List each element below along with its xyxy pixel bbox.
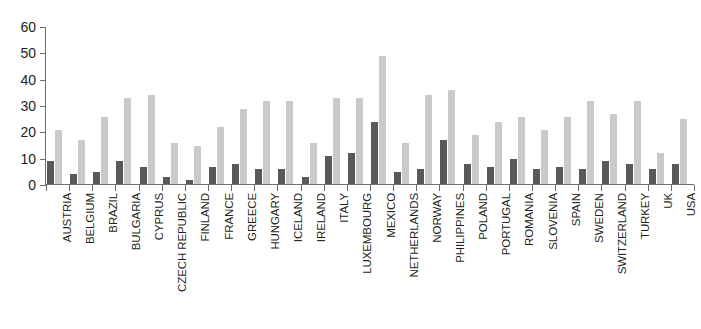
y-tick-label-60: 60 <box>20 20 36 34</box>
x-tick-mark <box>578 185 579 191</box>
x-tick-mark <box>370 185 371 191</box>
bar-series-light <box>587 101 594 185</box>
x-label-switzerland: SWITZERLAND <box>617 193 629 274</box>
x-tick-mark <box>671 185 672 191</box>
x-label-hungary: HUNGARY <box>270 193 282 250</box>
x-label-netherlands: NETHERLANDS <box>409 193 421 278</box>
bar-group <box>555 27 578 185</box>
bar-series-light <box>171 143 178 185</box>
bar-series-dark <box>533 169 540 185</box>
bar-group <box>370 27 393 185</box>
bar-series-light <box>217 127 224 185</box>
bar-series-dark <box>116 161 123 185</box>
x-label-finland: FINLAND <box>200 193 212 242</box>
bar-series-light <box>518 117 525 185</box>
y-tick-mark-30 <box>40 106 46 107</box>
bar-series-dark <box>209 167 216 185</box>
bar-group <box>254 27 277 185</box>
x-tick-mark <box>555 185 556 191</box>
x-tick-mark <box>694 185 695 191</box>
x-tick-mark <box>463 185 464 191</box>
bar-series-dark <box>626 164 633 185</box>
y-tick-mark-60 <box>40 27 46 28</box>
x-tick-mark <box>324 185 325 191</box>
x-tick-mark <box>69 185 70 191</box>
bar-group <box>463 27 486 185</box>
bar-group <box>115 27 138 185</box>
bar-group <box>92 27 115 185</box>
x-label-philippines: PHILIPPINES <box>455 193 467 263</box>
bar-series-light <box>101 117 108 185</box>
bar-series-light <box>333 98 340 185</box>
y-tick-label-50: 50 <box>20 46 36 60</box>
bar-group <box>648 27 671 185</box>
bar-chart: 6050403020100 AUSTRIABELGIUMBRAZILBULGAR… <box>0 0 701 329</box>
bar-series-light <box>310 143 317 185</box>
x-tick-mark <box>601 185 602 191</box>
x-tick-mark <box>648 185 649 191</box>
bar-series-dark <box>579 169 586 185</box>
bar-group <box>162 27 185 185</box>
bar-group <box>509 27 532 185</box>
bar-series-dark <box>556 167 563 185</box>
bar-series-light <box>148 95 155 185</box>
bar-group <box>439 27 462 185</box>
bar-series-light <box>448 90 455 185</box>
bar-series-light <box>356 98 363 185</box>
bar-series-light <box>541 130 548 185</box>
y-tick-mark-50 <box>40 53 46 54</box>
bar-series-dark <box>255 169 262 185</box>
bar-series-light <box>263 101 270 185</box>
x-tick-mark <box>115 185 116 191</box>
x-label-france: FRANCE <box>224 193 236 240</box>
y-tick-label-10: 10 <box>20 152 36 166</box>
x-label-ireland: IRELAND <box>316 193 328 242</box>
x-tick-mark <box>347 185 348 191</box>
x-label-brazil: BRAZIL <box>108 193 120 233</box>
x-tick-mark <box>162 185 163 191</box>
x-label-luxembourg: LUXEMBOURG <box>362 193 374 274</box>
x-label-austria: AUSTRIA <box>62 193 74 242</box>
bar-series-dark <box>440 140 447 185</box>
bar-series-dark <box>487 167 494 185</box>
x-tick-mark <box>532 185 533 191</box>
bar-group <box>324 27 347 185</box>
bar-series-light <box>634 101 641 185</box>
x-tick-mark <box>277 185 278 191</box>
x-label-norway: NORWAY <box>432 193 444 243</box>
x-tick-mark <box>254 185 255 191</box>
bar-series-dark <box>348 153 355 185</box>
x-label-bulgaria: BULGARIA <box>131 193 143 250</box>
bar-series-light <box>495 122 502 185</box>
bar-group <box>393 27 416 185</box>
bar-group <box>139 27 162 185</box>
x-tick-mark <box>301 185 302 191</box>
x-label-iceland: ICELAND <box>293 193 305 242</box>
bar-series-light <box>55 130 62 185</box>
y-tick-label-30: 30 <box>20 99 36 113</box>
plot-area <box>46 27 694 185</box>
x-label-spain: SPAIN <box>571 193 583 226</box>
bar-series-light <box>610 114 617 185</box>
bar-series-dark <box>140 167 147 185</box>
x-label-czech-republic: CZECH REPUBLIC <box>177 193 189 292</box>
y-tick-mark-20 <box>40 132 46 133</box>
bar-series-dark <box>602 161 609 185</box>
bar-group <box>231 27 254 185</box>
x-tick-mark <box>416 185 417 191</box>
x-tick-mark <box>46 185 47 191</box>
x-label-turkey: TURKEY <box>640 193 652 239</box>
bar-series-light <box>680 119 687 185</box>
x-tick-mark <box>231 185 232 191</box>
x-label-italy: ITALY <box>339 193 351 223</box>
bar-group <box>277 27 300 185</box>
bar-series-dark <box>47 161 54 185</box>
bar-series-dark <box>417 169 424 185</box>
x-label-sweden: SWEDEN <box>594 193 606 243</box>
bar-series-light <box>425 95 432 185</box>
x-label-poland: POLAND <box>478 193 490 240</box>
bar-series-dark <box>672 164 679 185</box>
bar-series-light <box>472 135 479 185</box>
x-tick-mark <box>139 185 140 191</box>
y-tick-label-20: 20 <box>20 125 36 139</box>
